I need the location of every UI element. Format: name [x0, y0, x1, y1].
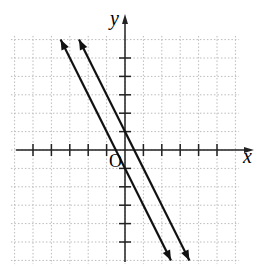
- y-axis-label: y: [108, 7, 119, 30]
- origin-label: O: [109, 151, 122, 171]
- coordinate-plane: x y O: [0, 0, 259, 267]
- x-axis-label: x: [242, 145, 252, 167]
